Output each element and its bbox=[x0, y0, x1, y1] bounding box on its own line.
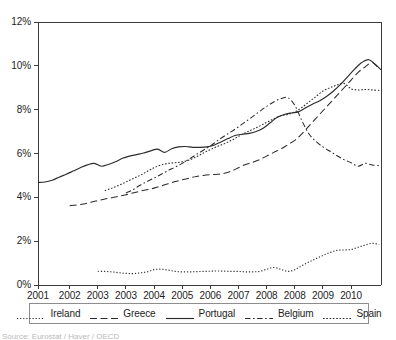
y-tick-label: 8% bbox=[0, 104, 31, 115]
legend-label: Ireland bbox=[50, 308, 80, 319]
series-line-spain bbox=[105, 83, 379, 191]
x-tick-label: 2001 bbox=[22, 290, 54, 301]
legend-swatch-ireland bbox=[16, 309, 46, 318]
legend-item-greece[interactable]: Greece bbox=[89, 308, 155, 319]
chart-series-group bbox=[38, 60, 381, 274]
y-tick-label: 2% bbox=[0, 235, 31, 246]
legend-label: Spain bbox=[356, 308, 381, 319]
legend-item-spain[interactable]: Spain bbox=[322, 308, 381, 319]
legend-label: Portugal bbox=[199, 308, 235, 319]
legend-swatch-greece bbox=[89, 309, 119, 318]
chart-plot-area bbox=[0, 0, 396, 340]
y-tick-label: 6% bbox=[0, 148, 31, 159]
chart-footnote: Source: Eurostat / Haver / OECD bbox=[2, 332, 119, 340]
legend-item-belgium[interactable]: Belgium bbox=[244, 308, 313, 319]
chart-figure: 0%2%4%6%8%10%12% 20012002200320032004200… bbox=[0, 0, 396, 340]
legend-item-portugal[interactable]: Portugal bbox=[165, 308, 235, 319]
y-tick-label: 12% bbox=[0, 16, 31, 27]
legend-swatch-spain bbox=[322, 309, 352, 318]
x-tick-label: 2010 bbox=[335, 290, 367, 301]
chart-axes bbox=[34, 22, 381, 289]
series-line-ireland bbox=[98, 243, 379, 273]
legend-item-ireland[interactable]: Ireland bbox=[16, 308, 80, 319]
y-tick-label: 10% bbox=[0, 60, 31, 71]
series-line-greece bbox=[70, 63, 380, 206]
legend-swatch-belgium bbox=[244, 309, 274, 318]
chart-legend: IrelandGreecePortugalBelgiumSpain bbox=[29, 303, 369, 324]
legend-label: Greece bbox=[123, 308, 155, 319]
legend-swatch-portugal bbox=[165, 309, 195, 318]
series-line-portugal bbox=[38, 60, 381, 183]
y-tick-label: 4% bbox=[0, 191, 31, 202]
legend-label: Belgium bbox=[278, 308, 313, 319]
series-line-belgium bbox=[126, 97, 379, 193]
y-tick-label: 0% bbox=[0, 279, 31, 290]
